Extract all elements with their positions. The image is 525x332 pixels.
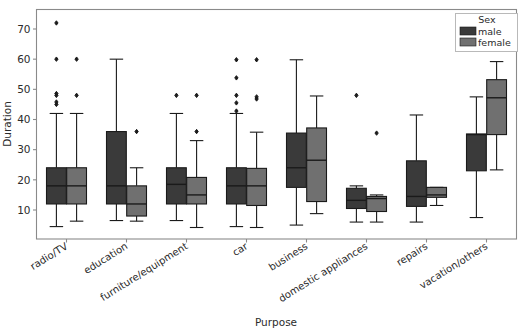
box-rect[interactable] (167, 168, 187, 204)
box-rect[interactable] (127, 186, 147, 216)
box-rect[interactable] (187, 177, 207, 204)
box-rect[interactable] (247, 168, 267, 205)
box-rect[interactable] (487, 80, 507, 135)
y-tick-label: 40 (17, 113, 30, 125)
legend-label-female[interactable]: female (478, 37, 511, 48)
y-tick-label: 10 (17, 204, 30, 216)
x-axis-title: Purpose (255, 316, 297, 328)
box-rect[interactable] (407, 161, 427, 207)
box-rect[interactable] (107, 132, 127, 204)
box-rect[interactable] (287, 133, 307, 187)
y-tick-label: 60 (17, 53, 30, 65)
y-tick-label: 30 (17, 143, 30, 155)
legend-title: Sex (478, 14, 496, 25)
box-rect[interactable] (307, 128, 327, 202)
y-axis-title: Duration (1, 101, 13, 147)
box-rect[interactable] (467, 134, 487, 171)
boxplot-figure: 10203040506070 radio/TVeducationfurnitur… (0, 0, 525, 332)
legend[interactable]: Sex male female (456, 14, 518, 52)
legend-swatch-female[interactable] (460, 38, 476, 46)
y-tick-label: 50 (17, 83, 30, 95)
legend-swatch-male[interactable] (460, 27, 476, 35)
y-tick-label: 20 (17, 174, 30, 186)
box-rect[interactable] (427, 187, 447, 197)
box-rect[interactable] (347, 188, 367, 208)
figure-background (0, 0, 525, 332)
legend-label-male[interactable]: male (478, 26, 502, 37)
boxplot-canvas: 10203040506070 radio/TVeducationfurnitur… (0, 0, 525, 332)
y-tick-label: 70 (17, 23, 30, 35)
